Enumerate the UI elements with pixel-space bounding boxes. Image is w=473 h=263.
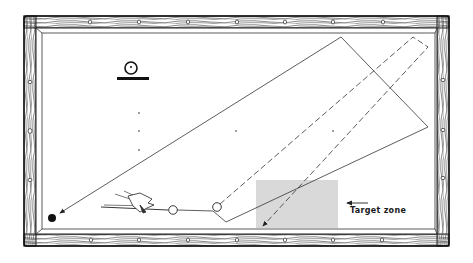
target-zone-label: Target zone	[350, 206, 406, 215]
cue-ball	[169, 206, 178, 215]
billiards-diagram: Target zone	[0, 0, 473, 263]
pocketed-ball	[48, 214, 56, 222]
object-ball	[213, 203, 222, 212]
